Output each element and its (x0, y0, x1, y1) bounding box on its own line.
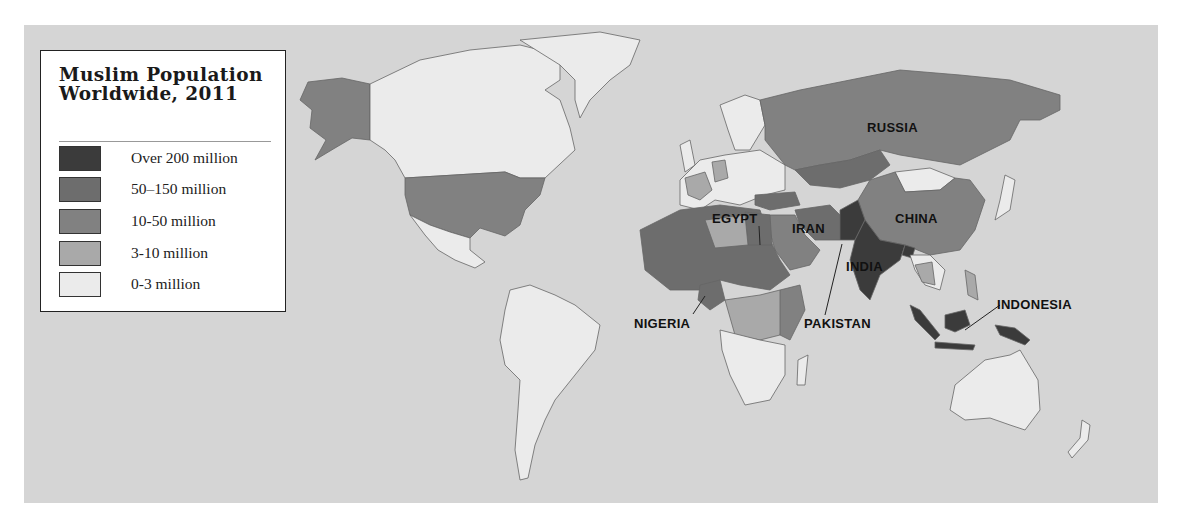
legend-swatch (59, 177, 101, 202)
region-canada (370, 45, 575, 178)
region-sumatra (910, 305, 940, 340)
leader-line-pakistan (825, 244, 842, 315)
region-nigeria (698, 280, 725, 310)
region-south-america (500, 285, 600, 480)
label-indonesia: INDONESIA (997, 297, 1072, 312)
legend-divider (59, 141, 271, 142)
region-japan (995, 175, 1015, 220)
legend-title: Muslim Population Worldwide, 2011 (59, 65, 279, 103)
legend-item-0-3: 0-3 million (59, 272, 279, 297)
legend-swatch (59, 241, 101, 266)
region-turkey (755, 192, 800, 210)
label-pakistan: PAKISTAN (804, 316, 871, 331)
region-germany (712, 160, 728, 182)
region-alaska (300, 78, 370, 160)
legend-swatch (59, 146, 101, 171)
label-nigeria: NIGERIA (634, 316, 690, 331)
label-russia: RUSSIA (867, 120, 918, 135)
legend-item-over-200: Over 200 million (59, 146, 279, 171)
map-legend: Muslim Population Worldwide, 2011 Over 2… (40, 50, 286, 312)
legend-item-3-10: 3-10 million (59, 241, 279, 266)
region-new-zealand (1068, 420, 1090, 458)
region-east-africa (780, 285, 805, 340)
legend-item-50-150: 50–150 million (59, 177, 279, 202)
legend-swatch (59, 272, 101, 297)
label-india: INDIA (846, 259, 883, 274)
region-madagascar (797, 355, 808, 385)
label-china: CHINA (895, 211, 938, 226)
legend-item-10-50: 10-50 million (59, 209, 279, 234)
region-java (935, 342, 975, 350)
region-philippines (965, 270, 978, 300)
region-australia (950, 350, 1040, 430)
region-new-guinea (995, 325, 1030, 345)
region-scandinavia (720, 95, 765, 150)
region-southern-africa (720, 330, 785, 405)
label-iran: IRAN (792, 221, 825, 236)
label-egypt: EGYPT (712, 211, 758, 226)
legend-swatch (59, 209, 101, 234)
leader-line-indonesia (965, 305, 1000, 330)
